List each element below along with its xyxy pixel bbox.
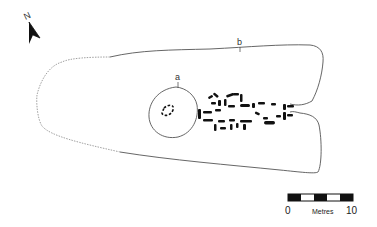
site-plan: N b a [0,0,377,227]
scale-end: 10 [346,205,358,216]
round-barrow-a [149,82,197,138]
scale-unit: Metres [312,208,334,215]
cairn-outline [37,45,323,173]
scale-start: 0 [285,205,291,216]
scale-bar: 0 Metres 10 [285,194,358,216]
north-arrow-icon [29,22,40,44]
label-b: b [237,37,242,47]
north-arrow: N [22,10,40,44]
label-a: a [175,72,180,82]
north-label: N [22,10,32,22]
stone-settings [198,92,294,131]
